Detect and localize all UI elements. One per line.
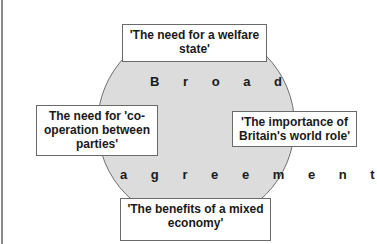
welfare-state-box: 'The need for a welfare state' bbox=[122, 24, 267, 62]
agreement-label: a g r e e m e n t bbox=[120, 167, 280, 182]
cooperation-text: The need for 'co-operation between parti… bbox=[37, 109, 157, 151]
cooperation-box: The need for 'co-operation between parti… bbox=[36, 105, 158, 156]
welfare-state-text: 'The need for a welfare state' bbox=[123, 28, 266, 56]
broad-label: B r o a d bbox=[150, 74, 245, 89]
left-margin-rule bbox=[1, 0, 3, 244]
world-role-text: 'The importance of Britain's world role' bbox=[233, 115, 356, 143]
mixed-economy-box: 'The benefits of a mixed economy' bbox=[120, 198, 271, 241]
mixed-economy-text: 'The benefits of a mixed economy' bbox=[121, 202, 270, 230]
world-role-box: 'The importance of Britain's world role' bbox=[232, 111, 357, 147]
